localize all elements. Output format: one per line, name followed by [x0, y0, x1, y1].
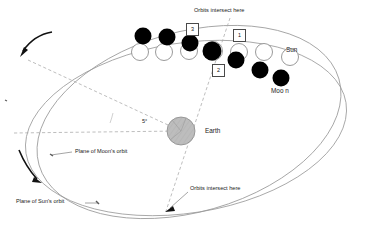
moon-plane-axis-line [28, 60, 181, 131]
moon-position [252, 62, 269, 79]
label-sun: Sun [286, 47, 297, 53]
plane-moon-leader [51, 152, 72, 155]
direction-arrows [19, 32, 52, 183]
plane-moon-leader-tick [50, 154, 53, 156]
moon-position [273, 70, 290, 87]
label-orbits-intersect-top: Orbits intersect here [194, 8, 244, 14]
label-plane-of-suns-orbit: Plane of Sun's orbit [16, 199, 64, 205]
sun-plane-axis-line [14, 131, 181, 133]
reference-lines [14, 18, 230, 211]
callout-box-3[interactable]: 3 [186, 23, 199, 36]
plane-sun-leader-tick [96, 201, 99, 204]
upper-rotation-arrowhead [20, 47, 28, 57]
moon-position [135, 28, 152, 45]
sun-position [156, 44, 173, 61]
label-angle-five-degrees: 5° [142, 119, 147, 125]
callout-box-1[interactable]: 1 [233, 29, 246, 42]
sun-position [256, 44, 273, 61]
callout-box-2[interactable]: 2 [212, 64, 225, 77]
left-edge-tick [5, 100, 7, 101]
leader-lines [0, 0, 188, 212]
bottom-node-arrowhead [165, 206, 175, 212]
sun-position [132, 44, 149, 61]
bottom-node-leader [170, 192, 188, 208]
moon-position [203, 42, 222, 61]
label-plane-of-moons-orbit: Plane of Moon's orbit [75, 149, 127, 155]
label-moon: Moo n [271, 88, 289, 94]
earth-body [167, 117, 195, 145]
five-degree-arc [110, 113, 113, 123]
orbital-planes-diagram: Orbits intersect here Sun Moo n Earth 5°… [0, 0, 381, 234]
moon-position [182, 35, 199, 52]
moon-position [159, 29, 176, 46]
lower-rotation-arrow [19, 150, 37, 179]
label-orbits-intersect-bottom: Orbits intersect here [190, 186, 240, 192]
moon-position [228, 52, 245, 69]
upper-rotation-arrow [23, 32, 52, 51]
label-earth: Earth [205, 128, 220, 134]
